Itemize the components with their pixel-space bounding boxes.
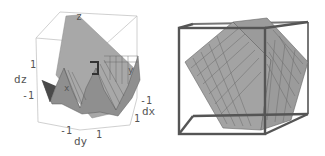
x-surface-label: x	[64, 84, 69, 93]
z-surface-label: z	[76, 12, 82, 22]
z-axis-label: dz	[14, 74, 27, 85]
y-tick-1: 1	[134, 114, 140, 124]
y-surface-label: y	[128, 66, 133, 75]
z-tick-neg1: -1	[22, 91, 34, 101]
x-tick-neg1: -1	[60, 126, 72, 136]
dx-axis-label: dx	[142, 106, 155, 117]
dy-axis-label: dy	[74, 136, 87, 147]
right-plot-graphic	[163, 0, 325, 156]
z-tick-1: 1	[30, 60, 36, 70]
right-3d-plot	[163, 0, 325, 156]
left-3d-plot: z x y 1 dz -1 -1 dx 1 -1 1 dy	[0, 0, 163, 156]
x-tick-1: 1	[96, 130, 102, 140]
